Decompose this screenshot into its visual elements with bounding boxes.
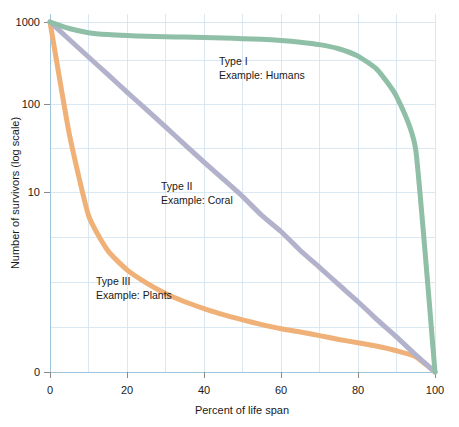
annotation-type-iii-title: Type III: [96, 275, 130, 287]
x-tick-label: 80: [352, 384, 364, 396]
x-tick-label: 40: [198, 384, 210, 396]
x-tick-label: 100: [426, 384, 444, 396]
y-tick-label: 1000: [16, 16, 40, 28]
annotation-type-ii-example: Example: Coral: [161, 194, 233, 206]
y-tick-label: 100: [22, 98, 40, 110]
annotation-type-i-title: Type I: [219, 55, 248, 67]
annotation-type-iii-example: Example: Plants: [96, 289, 172, 301]
x-tick-label: 60: [275, 384, 287, 396]
annotation-type-i-example: Example: Humans: [219, 69, 305, 81]
x-axis-title: Percent of life span: [195, 404, 289, 416]
y-tick-label: 0: [34, 366, 40, 378]
survivorship-curve-chart: 1000 100 10 0 0 20 40 60 80 100 Type I E…: [0, 0, 459, 427]
annotation-type-ii-title: Type II: [161, 180, 193, 192]
x-tick-label: 20: [121, 384, 133, 396]
x-tick-label: 0: [47, 384, 53, 396]
y-tick-label: 10: [28, 186, 40, 198]
chart-canvas: 1000 100 10 0 0 20 40 60 80 100 Type I E…: [0, 0, 459, 427]
y-axis-title: Number of survivors (log scale): [9, 117, 21, 269]
